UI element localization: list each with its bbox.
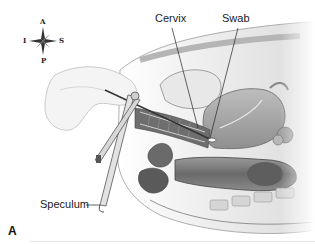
- speculum-label: Speculum: [40, 198, 89, 210]
- compass-superior: S: [59, 36, 64, 45]
- anatomical-illustration: A P I S Cervix Swab Speculum A: [0, 0, 315, 244]
- compass-inferior: I: [23, 36, 26, 45]
- swab-label: Swab: [222, 12, 250, 24]
- compass-anterior: A: [40, 17, 45, 26]
- swab-tip: [208, 138, 216, 142]
- panel-letter: A: [8, 224, 17, 238]
- compass-posterior: P: [41, 56, 46, 65]
- compass-rose-icon: [29, 27, 57, 55]
- cervix-label: Cervix: [155, 12, 186, 24]
- bottom-rule: [30, 241, 315, 242]
